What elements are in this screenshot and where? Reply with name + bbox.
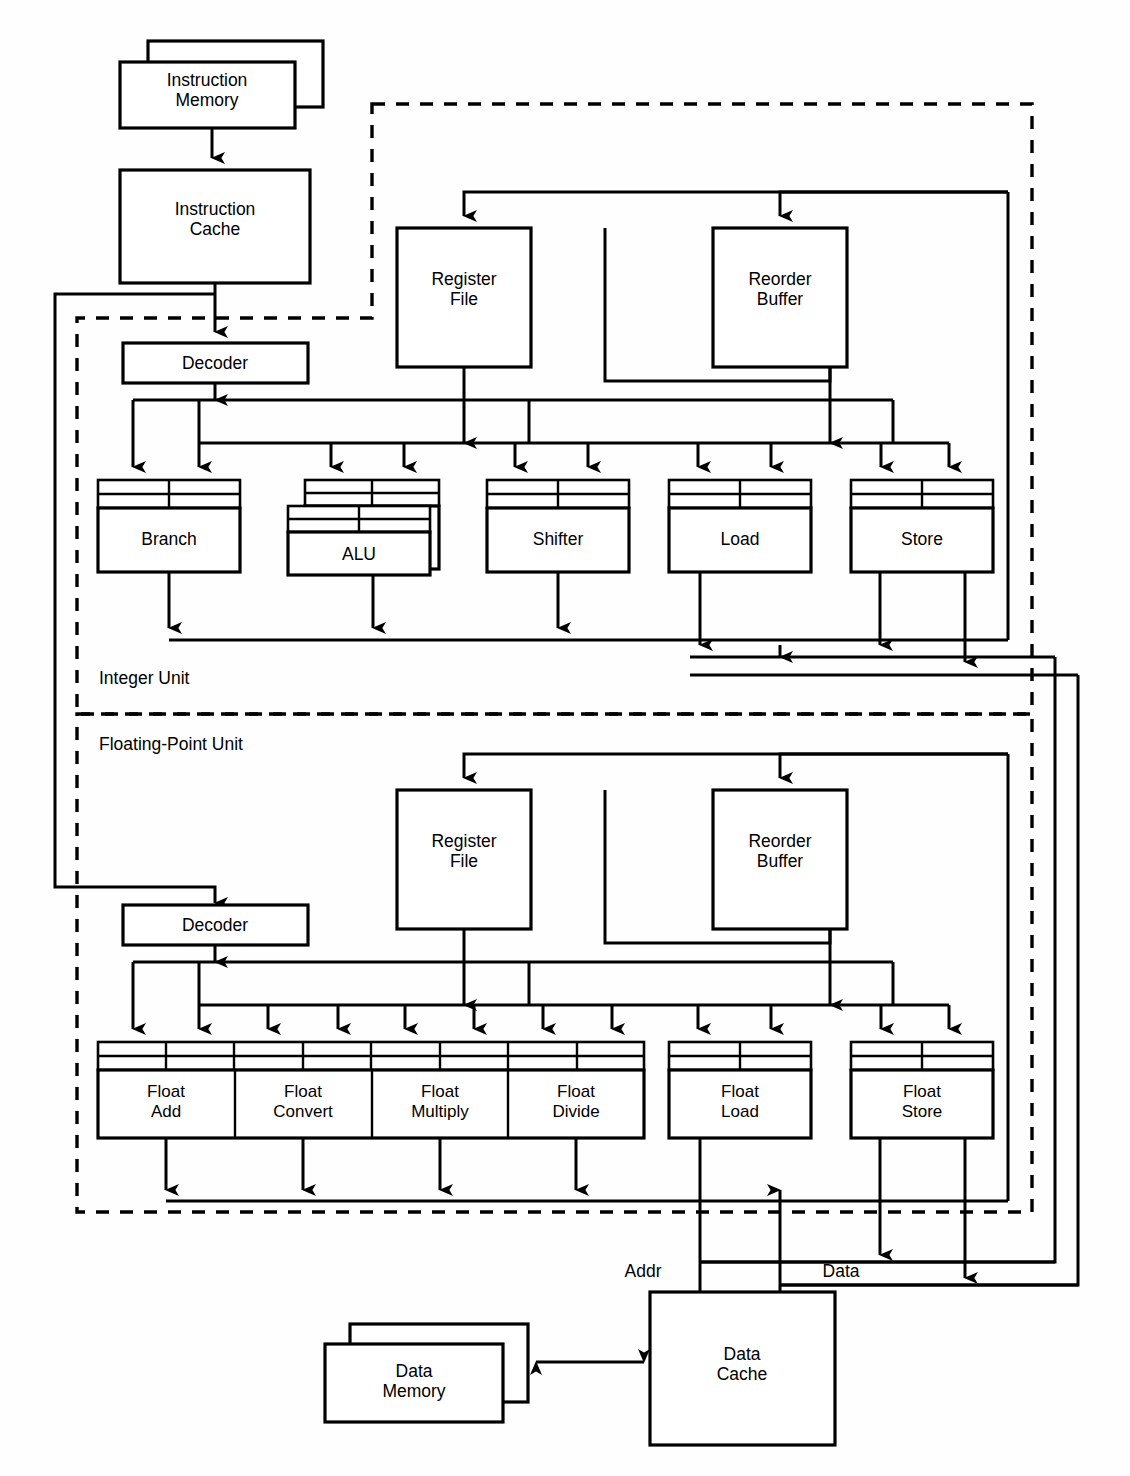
fp-reorder-buffer-label-line1: Reorder (748, 831, 811, 851)
data-memory-label-line1: Data (396, 1361, 433, 1381)
fp-decoder-label: Decoder (182, 915, 248, 935)
float-multiply-label-line2: Multiply (411, 1102, 469, 1121)
unit-alu[interactable]: ALU (288, 480, 439, 575)
diagram-canvas: Integer Unit Floating-Point Unit Instruc… (0, 0, 1130, 1476)
float-divide-label-line2: Divide (552, 1102, 599, 1121)
float-convert-label-line1: Float (284, 1082, 322, 1101)
integer-unit-label: Integer Unit (99, 668, 190, 688)
unit-float-load[interactable]: Float Load (669, 1042, 811, 1138)
store-unit-label: Store (901, 529, 943, 549)
integer-decoder-label: Decoder (182, 353, 248, 373)
integer-reorder-buffer-label-line2: Buffer (757, 289, 804, 309)
load-unit-label: Load (721, 529, 760, 549)
wire-icache-to-fp-decoder (55, 294, 215, 903)
floating-point-unit-label: Floating-Point Unit (99, 734, 243, 754)
float-convert-label-line2: Convert (273, 1102, 333, 1121)
branch-unit-label: Branch (141, 529, 196, 549)
unit-branch[interactable]: Branch (98, 480, 240, 572)
wire-fp-writeback-to-rob (780, 754, 1008, 778)
float-store-label-line1: Float (903, 1082, 941, 1101)
instruction-memory-label-line2: Memory (175, 90, 238, 110)
int-data-bus-down (780, 675, 1078, 1285)
shifter-unit-label: Shifter (533, 529, 584, 549)
data-cache-label-line1: Data (724, 1344, 761, 1364)
instruction-cache-label-line1: Instruction (175, 199, 256, 219)
unit-shifter[interactable]: Shifter (487, 480, 629, 572)
addr-bus-label: Addr (625, 1261, 662, 1281)
wire-int-writeback-to-regfile (464, 192, 1008, 216)
fp-reorder-buffer-label-line2: Buffer (757, 851, 804, 871)
int-addr-bus-down (700, 657, 1055, 1262)
unit-float-store[interactable]: Float Store (851, 1042, 993, 1138)
float-load-label-line2: Load (721, 1102, 759, 1121)
fp-register-file-label-line2: File (450, 851, 478, 871)
instruction-memory-label-line1: Instruction (167, 70, 248, 90)
float-add-label-line1: Float (147, 1082, 185, 1101)
alu-unit-label: ALU (342, 544, 376, 564)
wire-fp-writeback-to-regfile (464, 754, 1008, 778)
fp-unit-group-arith: Float Add Float Convert Float Multiply F… (98, 1042, 644, 1138)
float-store-label-line2: Store (902, 1102, 943, 1121)
data-memory-label-line2: Memory (382, 1381, 445, 1401)
unit-load[interactable]: Load (669, 480, 811, 572)
integer-register-file-label-line1: Register (431, 269, 496, 289)
float-add-label-line2: Add (151, 1102, 181, 1121)
data-cache-label-line2: Cache (717, 1364, 768, 1384)
instruction-cache-label-line2: Cache (190, 219, 241, 239)
float-load-label-line1: Float (721, 1082, 759, 1101)
wire-int-writeback-to-rob (780, 192, 1008, 216)
integer-register-file-label-line2: File (450, 289, 478, 309)
unit-store[interactable]: Store (851, 480, 993, 572)
block-diagram-svg: Integer Unit Floating-Point Unit Instruc… (0, 0, 1130, 1476)
float-divide-label-line1: Float (557, 1082, 595, 1101)
data-bus-label: Data (823, 1261, 860, 1281)
float-multiply-label-line1: Float (421, 1082, 459, 1101)
integer-reorder-buffer-label-line1: Reorder (748, 269, 811, 289)
fp-register-file-label-line1: Register (431, 831, 496, 851)
